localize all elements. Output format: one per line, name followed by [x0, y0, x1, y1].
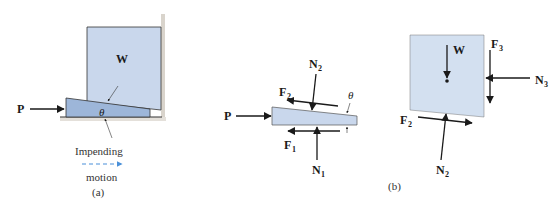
wedge-n1-label: N	[312, 163, 321, 177]
block-f2-sub: 2	[408, 120, 412, 129]
wall	[161, 14, 165, 120]
wedge-fbd	[272, 107, 357, 125]
wedge-f1-sub: 1	[292, 145, 296, 154]
block-w	[87, 27, 161, 110]
block-f2-label: F	[400, 113, 407, 127]
theta-leader-bottom	[105, 119, 112, 138]
floor	[60, 117, 166, 121]
block-n2-label: N	[436, 163, 445, 177]
block-n3-label: N	[535, 73, 544, 87]
force-p-label: P	[17, 102, 24, 116]
wedge-n2-arrow	[312, 74, 316, 110]
block-n3-sub: 3	[544, 80, 548, 89]
center-of-mass-dot	[445, 79, 449, 83]
part-a-diagram: W θ P Impending motion (a)	[17, 14, 166, 199]
wedge-theta-leader-top	[347, 103, 350, 113]
block-n2-sub: 2	[445, 170, 449, 179]
part-b-block-fbd: W F 3 N 3 F 2 N 2 (b)	[388, 35, 548, 193]
wedge-f2-label: F	[279, 85, 286, 99]
block-f3-sub: 3	[499, 44, 503, 53]
wedge-theta-label: θ	[348, 89, 354, 101]
part-b-wedge-fbd: P N 2 F 2 θ F 1 N 1	[224, 57, 357, 179]
wedge-n2-sub: 2	[318, 64, 322, 73]
wedge-n2-label: N	[309, 57, 318, 71]
wedge-n1-sub: 1	[321, 170, 325, 179]
block-w-label: W	[116, 52, 128, 66]
caption-b: (b)	[388, 180, 401, 193]
impending-label: Impending	[75, 145, 123, 157]
motion-label: motion	[86, 171, 118, 183]
wedge-f1-label: F	[284, 138, 291, 152]
wedge-diagram: W θ P Impending motion (a) P N 2 F 2 θ	[0, 0, 559, 211]
caption-a: (a)	[92, 186, 105, 199]
wedge-force-p-label: P	[224, 109, 231, 123]
block-f3-label: F	[491, 37, 498, 51]
block-w-fbd-label: W	[453, 43, 465, 57]
block-n2-arrow	[441, 114, 446, 160]
angle-theta-label: θ	[99, 106, 105, 118]
